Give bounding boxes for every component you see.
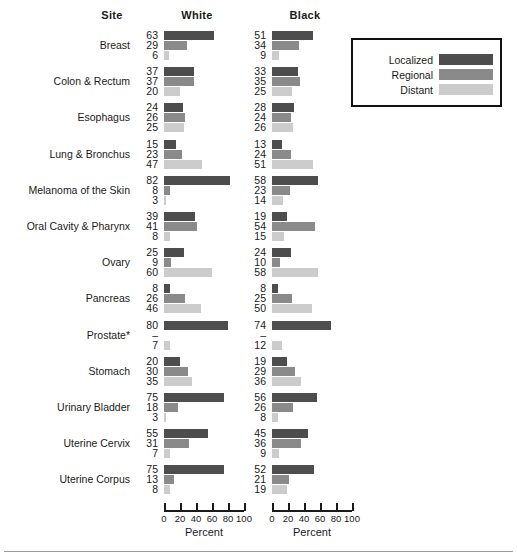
bar-distant: [272, 304, 312, 313]
bar-localized: [164, 103, 183, 112]
bar-localized: [164, 140, 176, 149]
bar-distant: [164, 341, 170, 350]
bar-distant: [272, 87, 292, 96]
bar-value-label: 12: [240, 340, 266, 351]
site-label: Ovary: [8, 256, 130, 269]
bar-value-label: 14: [240, 195, 266, 206]
bar-value-label: 7: [132, 448, 158, 459]
site-label: Prostate*: [8, 329, 130, 342]
bar-line-distant: 51: [240, 160, 400, 170]
bar-regional: [164, 475, 174, 484]
axis-tick: [320, 503, 322, 511]
bar-localized: [272, 393, 317, 402]
chart-row: Prostate*80–774–12: [0, 320, 517, 354]
bar-regional: [164, 294, 185, 303]
axis-tick: [228, 503, 230, 511]
bar-value-label: 20: [132, 86, 158, 97]
axis-tick: [288, 503, 290, 511]
bar-distant: [164, 485, 170, 494]
site-label: Pancreas: [8, 292, 130, 305]
legend-item-regional: Regional: [353, 69, 500, 82]
bar-distant: [272, 160, 313, 169]
bar-localized: [164, 248, 184, 257]
bar-value-label: 60: [132, 267, 158, 278]
bar-distant: [272, 123, 293, 132]
bar-regional: [272, 113, 291, 122]
bar-regional: [164, 41, 187, 50]
bar-value-label: 46: [132, 303, 158, 314]
bar-distant: [272, 341, 282, 350]
bar-value-label: 51: [240, 159, 266, 170]
bar-regional: [272, 439, 301, 448]
bar-localized: [164, 357, 180, 366]
legend-item-localized: Localized: [353, 54, 500, 67]
bar-distant: [164, 232, 170, 241]
site-label: Uterine Corpus: [8, 473, 130, 486]
bar-value-label: 15: [240, 231, 266, 242]
bar-regional: [272, 41, 299, 50]
bar-localized: [272, 465, 314, 474]
bar-value-label: 3: [132, 412, 158, 423]
bar-regional: [272, 258, 280, 267]
bar-localized: [164, 67, 194, 76]
bar-localized: [272, 67, 298, 76]
legend-label: Regional: [359, 69, 433, 81]
chart-row: Uterine Cervix5531745369: [0, 428, 517, 462]
bar-distant: [164, 413, 166, 422]
bar-localized: [272, 248, 291, 257]
chart-row: Esophagus242625282426: [0, 102, 517, 136]
bar-value-label: 8: [132, 484, 158, 495]
site-label: Oral Cavity & Pharynx: [8, 220, 130, 233]
bar-group-black: 282426: [240, 102, 400, 136]
chart-row: Urinary Bladder7518356268: [0, 392, 517, 426]
axis-black: 020406080100Percent: [240, 500, 400, 530]
bar-line-distant: 12: [240, 341, 400, 351]
bar-distant: [272, 196, 283, 205]
axis-tick: [196, 503, 198, 511]
legend-swatch: [439, 69, 493, 80]
bar-distant: [272, 485, 287, 494]
bar-distant: [272, 449, 279, 458]
bar-distant: [164, 123, 184, 132]
bar-localized: [272, 357, 287, 366]
column-header-white: White: [175, 9, 219, 21]
bar-line-distant: 36: [240, 377, 400, 387]
axis-line: [164, 510, 244, 512]
bar-value-label: 50: [240, 303, 266, 314]
axis-title: Percent: [272, 526, 352, 538]
chart-row: Ovary25960241058: [0, 247, 517, 281]
site-label: Melanoma of the Skin: [8, 184, 130, 197]
bar-group-black: 522119: [240, 464, 400, 498]
axis-tick: [272, 503, 274, 511]
bar-line-distant: 9: [240, 449, 400, 459]
site-label: Uterine Cervix: [8, 437, 130, 450]
axis-title: Percent: [164, 526, 244, 538]
axis-tick: [164, 503, 166, 511]
bar-value-label: 47: [132, 159, 158, 170]
bar-line-distant: 15: [240, 232, 400, 242]
bar-distant: [164, 196, 166, 205]
bar-line-distant: 19: [240, 485, 400, 495]
bar-regional: [272, 294, 292, 303]
bar-value-label: 35: [132, 376, 158, 387]
stage-at-diagnosis-chart: Site White Black Breast6329651349Colon &…: [0, 0, 517, 559]
bar-group-black: 132451: [240, 139, 400, 173]
bar-group-black: 195415: [240, 211, 400, 245]
bar-localized: [272, 212, 287, 221]
chart-row: Melanoma of the Skin8283582314: [0, 175, 517, 209]
bar-regional: [272, 150, 291, 159]
bar-value-label: 58: [240, 267, 266, 278]
axis-tick: [304, 503, 306, 511]
bar-group-black: 74–12: [240, 320, 400, 354]
bar-distant: [164, 87, 180, 96]
bar-distant: [164, 268, 212, 277]
bar-regional: [272, 77, 300, 86]
bar-line-distant: 58: [240, 268, 400, 278]
bar-localized: [272, 140, 282, 149]
bar-regional: [272, 367, 295, 376]
bar-distant: [164, 304, 201, 313]
chart-row: Oral Cavity & Pharynx39418195415: [0, 211, 517, 245]
site-label: Stomach: [8, 365, 130, 378]
axis-tick: [180, 503, 182, 511]
bar-value-label: 36: [240, 376, 266, 387]
